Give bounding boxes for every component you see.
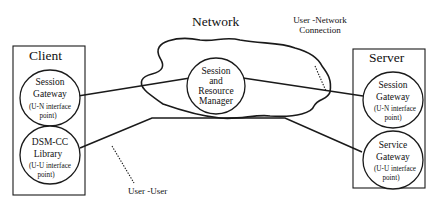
server-session-gateway-line2: Gateway: [376, 92, 410, 102]
client-session-to-srm-line: [78, 78, 190, 96]
client-dsmcc-note1: (U-U interface: [29, 162, 71, 170]
user-network-label-line1: User -Network: [293, 15, 347, 25]
srm-line1: Session: [201, 66, 230, 76]
user-user-pointer: [112, 146, 134, 183]
user-network-label-line2: Connection: [299, 25, 341, 35]
server-service-gateway-line1: Service: [379, 140, 408, 150]
dsmcc-architecture-diagram: Network Client Server Session Gateway (U…: [0, 0, 436, 211]
srm-line3: Resource: [198, 86, 233, 96]
client-title: Client: [29, 48, 62, 63]
server-session-gateway-note1: (U-N interface: [374, 105, 416, 113]
client-session-gateway-line1: Session: [35, 77, 64, 87]
server-service-gateway-note2: point): [382, 174, 400, 182]
server-session-gateway-note2: point): [384, 114, 402, 122]
network-title: Network: [192, 14, 239, 29]
srm-line2: and: [209, 76, 223, 86]
client-dsmcc-to-server-service-line: [80, 118, 362, 152]
client-session-gateway-note2: point): [39, 112, 57, 120]
client-dsmcc-note2: point): [37, 171, 55, 179]
server-service-gateway-note1: (U-U interface: [374, 165, 416, 173]
srm-line4: Manager: [199, 96, 234, 106]
srm-to-server-session-line: [243, 78, 363, 96]
server-title: Server: [369, 50, 405, 65]
client-session-gateway-note1: (U-N interface: [29, 103, 71, 111]
server-session-gateway-line1: Session: [378, 80, 407, 90]
client-dsmcc-line2: Library: [34, 149, 63, 159]
client-session-gateway-line2: Gateway: [33, 89, 67, 99]
server-service-gateway-line2: Gateway: [376, 152, 410, 162]
client-dsmcc-line1: DSM-CC: [32, 137, 68, 147]
user-user-label: User -User: [128, 186, 167, 196]
